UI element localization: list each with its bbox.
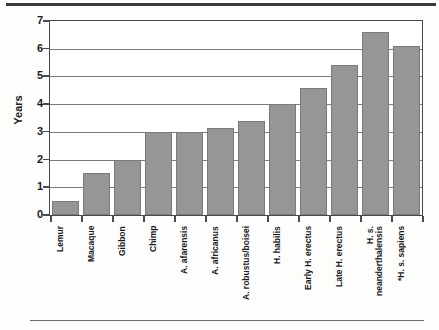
y-tick-mark (43, 48, 50, 50)
y-tick-mark (43, 131, 50, 133)
chart-figure: Years 01234567 LemurMacaqueGibbonChimpA.… (0, 0, 439, 330)
y-tick-label: 7 (17, 15, 43, 26)
x-tick-label: A. robustus/boisei (242, 226, 262, 314)
bar (83, 173, 111, 215)
x-tick-mark (112, 216, 114, 222)
y-tick-mark (43, 20, 50, 22)
x-tick-label: H. s. neanderthalensis (366, 226, 386, 314)
x-tick-mark (174, 216, 176, 222)
x-tick-label: Chimp (149, 226, 169, 314)
x-tick-label: A. africanus (211, 226, 231, 314)
bar (393, 46, 421, 215)
y-tick-mark (43, 103, 50, 105)
x-tick-mark (236, 216, 238, 222)
y-tick-label: 0 (17, 209, 43, 220)
bar (145, 132, 173, 215)
x-tick-label: H. habilis (273, 226, 293, 314)
bar (176, 132, 204, 215)
bar (269, 104, 297, 215)
x-tick-mark (143, 216, 145, 222)
y-tick-label: 2 (17, 154, 43, 165)
y-tick-label: 6 (17, 43, 43, 54)
x-tick-label: Lemur (56, 226, 76, 314)
x-tick-mark (391, 216, 393, 222)
x-tick-mark (267, 216, 269, 222)
bars-group (50, 21, 422, 215)
x-tick-label: Gibbon (118, 226, 138, 314)
x-tick-mark (422, 216, 424, 222)
y-tick-mark (43, 159, 50, 161)
x-tick-mark (329, 216, 331, 222)
x-tick-mark (50, 216, 52, 222)
x-tick-label: Late H. erectus (335, 226, 355, 314)
bottom-divider-rule (30, 320, 424, 321)
x-tick-mark (360, 216, 362, 222)
bar (207, 128, 235, 215)
bar (114, 160, 142, 215)
x-tick-label: Early H. erectus (304, 226, 324, 314)
bar (362, 32, 390, 215)
y-tick-mark (43, 214, 50, 216)
y-tick-mark (43, 75, 50, 77)
x-tick-label: A. afarensis (180, 226, 200, 314)
bar (52, 201, 80, 215)
bar (238, 121, 266, 215)
y-tick-mark (43, 186, 50, 188)
x-tick-label: *H. s. sapiens (397, 226, 417, 314)
x-tick-label: Macaque (87, 226, 107, 314)
y-tick-label: 3 (17, 126, 43, 137)
x-tick-mark (81, 216, 83, 222)
x-tick-mark (298, 216, 300, 222)
y-tick-label: 5 (17, 70, 43, 81)
x-tick-mark (205, 216, 207, 222)
bar (331, 65, 359, 215)
bar (300, 88, 328, 215)
top-divider-rule (6, 3, 436, 6)
y-tick-label: 4 (17, 98, 43, 109)
y-tick-label: 1 (17, 181, 43, 192)
